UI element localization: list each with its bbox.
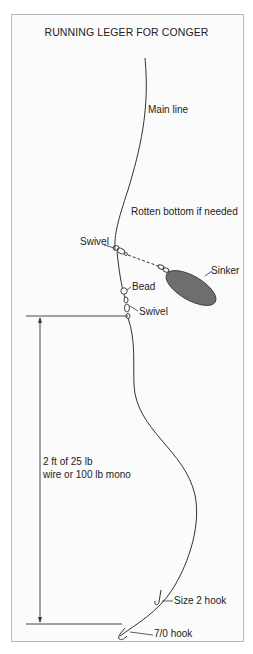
sinker-swivel-icon <box>157 264 169 273</box>
label-size2-hook: Size 2 hook <box>174 595 226 607</box>
swivel-bottom-icon <box>124 297 130 319</box>
label-bead: Bead <box>132 281 155 293</box>
bead-icon <box>121 288 127 294</box>
label-7-0-hook: 7/0 hook <box>154 628 192 640</box>
label-main-line: Main line <box>148 104 188 116</box>
diagram-title: RUNNING LEGER FOR CONGER <box>0 26 253 38</box>
size2-hook-icon <box>155 590 161 605</box>
rotten-bottom-link <box>128 255 158 266</box>
label-trace-line1: 2 ft of 25 lb <box>43 456 92 468</box>
main-line <box>115 58 146 250</box>
label-rotten-bottom: Rotten bottom if needed <box>131 206 238 218</box>
trace-line <box>120 318 197 636</box>
arrow-down-icon <box>38 617 42 623</box>
label-swivel-top: Swivel <box>80 236 109 248</box>
label-swivel-bottom: Swivel <box>139 306 168 318</box>
rig-diagram <box>0 0 253 654</box>
label-sinker: Sinker <box>211 265 239 277</box>
label-trace-line2: wire or 100 lb mono <box>43 469 131 481</box>
arrow-up-icon <box>38 317 42 323</box>
